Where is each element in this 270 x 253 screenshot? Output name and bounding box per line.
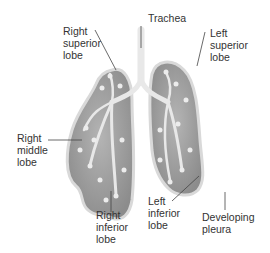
- label-right-middle-lobe: Right middle lobe: [17, 132, 48, 168]
- label-right-superior-lobe: Right superior lobe: [63, 25, 101, 61]
- label-trachea: Trachea: [148, 12, 186, 24]
- label-left-inferior-lobe: Left inferior lobe: [148, 195, 180, 231]
- label-developing-pleura: Developing pleura: [202, 211, 255, 235]
- label-right-inferior-lobe: Right inferior lobe: [96, 209, 128, 245]
- label-left-superior-lobe: Left superior lobe: [210, 27, 248, 63]
- right-lung: [67, 69, 134, 219]
